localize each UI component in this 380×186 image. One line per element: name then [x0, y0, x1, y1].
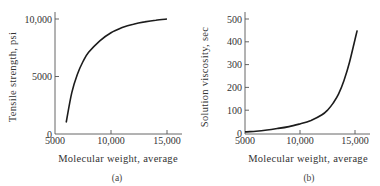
y-tick-label: 5000 — [32, 71, 52, 82]
chart-b-y-axis-title: Solution viscosity, sec — [199, 27, 210, 127]
chart-b-x-axis-title: Molecular weight, average — [248, 153, 368, 164]
y-tick-label: 500 — [227, 14, 242, 25]
x-tick-label: 10,000 — [286, 135, 314, 146]
chart-b-axes — [245, 12, 370, 134]
chart-b-solution-viscosity: 0100200300400500 500010,00015,000 Soluti… — [199, 12, 370, 184]
x-tick-label: 15,000 — [341, 135, 369, 146]
figure: 0500010,000 500010,00015,000 Tensile str… — [0, 0, 380, 186]
chart-a-x-ticks: 500010,00015,000 — [45, 130, 181, 146]
y-tick-label: 10,000 — [25, 14, 53, 25]
x-tick-label: 5000 — [235, 135, 255, 146]
chart-b-caption: (b) — [303, 173, 314, 184]
y-tick-label: 400 — [227, 36, 242, 47]
chart-a-curve — [66, 19, 167, 123]
x-tick-label: 5000 — [45, 135, 65, 146]
y-tick-label: 100 — [227, 105, 242, 116]
chart-b-curve — [245, 30, 357, 131]
chart-a-y-ticks: 0500010,000 — [25, 14, 60, 140]
chart-b-x-ticks: 500010,00015,000 — [235, 130, 369, 146]
y-tick-label: 200 — [227, 82, 242, 93]
chart-a-tensile-strength: 0500010,000 500010,00015,000 Tensile str… — [7, 12, 182, 184]
chart-a-x-axis-title: Molecular weight, average — [58, 153, 178, 164]
chart-b-y-ticks: 0100200300400500 — [227, 14, 249, 139]
chart-a-axes — [55, 12, 182, 134]
x-tick-label: 15,000 — [153, 135, 181, 146]
y-tick-label: 300 — [227, 59, 242, 70]
chart-a-y-axis-title: Tensile strength, psi — [7, 32, 18, 122]
chart-a-caption: (a) — [112, 173, 123, 184]
x-tick-label: 10,000 — [97, 135, 125, 146]
